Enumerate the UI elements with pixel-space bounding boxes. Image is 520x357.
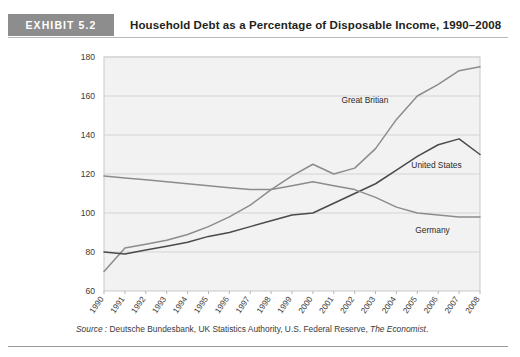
- exhibit-header: EXHIBIT 5.2 Household Debt as a Percenta…: [8, 14, 508, 36]
- y-tick-label: 100: [81, 208, 96, 218]
- exhibit-figure: EXHIBIT 5.2 Household Debt as a Percenta…: [0, 0, 520, 357]
- series-label-great-britian: Great Britian: [341, 95, 388, 105]
- x-tick-label: 1990: [88, 295, 106, 315]
- bottom-divider: [8, 346, 508, 347]
- x-tick-label: 1997: [234, 295, 252, 315]
- x-tick-label: 2001: [318, 295, 336, 315]
- x-tick-label: 2008: [464, 295, 482, 315]
- x-tick-label: 2006: [422, 295, 440, 315]
- x-tick-label: 2002: [338, 295, 356, 315]
- x-axis-labels: 1990199119921993199419951996199719981999…: [88, 295, 482, 315]
- source-note: Source : Deutsche Bundesbank, UK Statist…: [76, 324, 506, 334]
- source-prefix: Source :: [76, 324, 107, 334]
- x-tick-label: 1996: [213, 295, 231, 315]
- series-label-united-states: United States: [411, 160, 461, 170]
- x-tick-label: 1994: [171, 295, 189, 315]
- y-tick-label: 80: [85, 247, 95, 257]
- x-tick-label: 1995: [192, 295, 210, 315]
- title-container: Household Debt as a Percentage of Dispos…: [114, 14, 508, 36]
- x-tick-label: 1993: [150, 295, 168, 315]
- x-tick-label: 2005: [401, 295, 419, 315]
- source-text: Deutsche Bundesbank, UK Statistics Autho…: [107, 324, 370, 334]
- chart-area: 6080100120140160180 19901991199219931994…: [8, 38, 508, 343]
- exhibit-number-badge: EXHIBIT 5.2: [8, 14, 114, 36]
- line-chart: 6080100120140160180 19901991199219931994…: [8, 38, 508, 343]
- source-publication: The Economist: [370, 324, 426, 334]
- x-tick-label: 1999: [276, 295, 294, 315]
- y-tick-label: 140: [81, 130, 96, 140]
- x-tick-label: 2004: [380, 295, 398, 315]
- x-tick-label: 2007: [443, 295, 461, 315]
- source-period: .: [426, 324, 428, 334]
- page-title: Household Debt as a Percentage of Dispos…: [130, 19, 501, 31]
- x-tick-label: 2003: [359, 295, 377, 315]
- y-tick-label: 180: [81, 52, 96, 62]
- y-tick-label: 120: [81, 169, 96, 179]
- x-tick-label: 1992: [130, 295, 148, 315]
- x-tick-label: 2000: [297, 295, 315, 315]
- y-tick-label: 160: [81, 91, 96, 101]
- y-axis-labels: 6080100120140160180: [81, 52, 96, 296]
- y-tick-label: 60: [85, 286, 95, 296]
- x-tick-label: 1998: [255, 295, 273, 315]
- x-tick-label: 1991: [109, 295, 127, 315]
- series-label-germany: Germany: [415, 225, 450, 235]
